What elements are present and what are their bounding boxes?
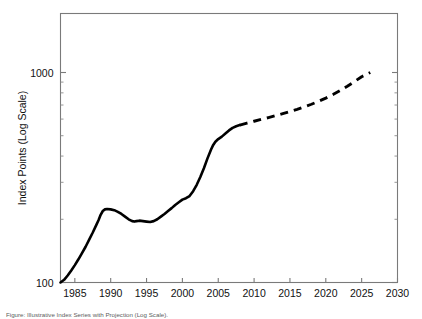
y-axis-ticks xyxy=(61,73,398,283)
y-tick-label: 100 xyxy=(36,277,54,289)
x-tick-label: 1985 xyxy=(63,287,87,299)
x-axis-tick-labels: 1985199019952000200520102015202020252030 xyxy=(63,287,409,299)
y-axis-title: Index Points (Log Scale) xyxy=(16,91,28,205)
x-tick-label: 2020 xyxy=(314,287,338,299)
x-tick-label: 1990 xyxy=(99,287,123,299)
x-axis-ticks xyxy=(75,278,398,283)
x-tick-label: 2015 xyxy=(278,287,302,299)
plot-frame xyxy=(61,14,398,283)
y-axis-tick-labels: 1001000 xyxy=(30,67,54,289)
y-tick-label: 1000 xyxy=(30,67,54,79)
x-tick-label: 2025 xyxy=(350,287,374,299)
x-tick-label: 1995 xyxy=(135,287,159,299)
x-tick-label: 2010 xyxy=(242,287,266,299)
figure-container: 1985199019952000200520102015202020252030… xyxy=(0,0,422,319)
y-axis-minor-ticks xyxy=(61,82,398,219)
figure-caption: Figure: Illustrative Index Series with P… xyxy=(6,311,418,318)
series-historical-line xyxy=(61,125,240,282)
x-tick-label: 2005 xyxy=(207,287,231,299)
index-points-log-chart: 1985199019952000200520102015202020252030… xyxy=(0,0,422,319)
series-projection-line xyxy=(240,73,370,126)
x-tick-label: 2000 xyxy=(171,287,195,299)
x-tick-label: 2030 xyxy=(386,287,410,299)
